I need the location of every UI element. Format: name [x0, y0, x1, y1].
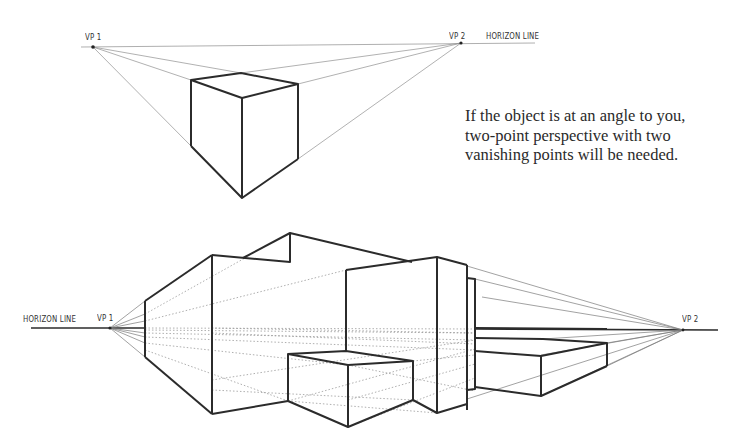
- top-cube: [191, 73, 298, 198]
- top-vp1-point: [91, 45, 95, 49]
- bottom-vp1-guides: [110, 301, 145, 357]
- top-vp1-label: VP 1: [85, 31, 101, 42]
- top-vp2-point: [459, 41, 462, 44]
- caption-line: vanishing points will be needed.: [465, 145, 735, 165]
- bottom-vp2-label: VP 2: [682, 313, 698, 324]
- caption-line: If the object is at an angle to you,: [465, 106, 735, 126]
- top-vp2-label: VP 2: [449, 30, 465, 41]
- top-vp2-guides: [241, 43, 461, 159]
- top-vp1-guides: [93, 47, 241, 146]
- caption: If the object is at an angle to you, two…: [465, 106, 735, 165]
- bottom-dotted-guides-vp1: [145, 258, 475, 413]
- bottom-vp1-point: [108, 326, 111, 329]
- bottom-diagram: [31, 233, 718, 427]
- top-horizon-line: [81, 43, 535, 47]
- bottom-vp2-point: [682, 329, 685, 332]
- bottom-vp1-label: VP 1: [97, 312, 113, 323]
- top-horizon-label: HORIZON LINE: [486, 30, 539, 41]
- caption-line: two-point perspective with two: [465, 126, 735, 146]
- perspective-drawing: [0, 0, 745, 445]
- bottom-horizon-label: HORIZON LINE: [23, 313, 76, 324]
- bottom-vp2-guides: [467, 266, 683, 399]
